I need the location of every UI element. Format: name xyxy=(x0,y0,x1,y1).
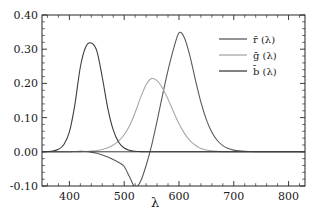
y-tick-label: 0.00 xyxy=(14,146,39,159)
x-tick-label: 400 xyxy=(59,190,80,203)
color-matching-functions-plot: 400500600700800 -0.100.000.100.200.300.4… xyxy=(0,0,324,218)
y-tick-label: -0.10 xyxy=(10,180,38,193)
x-tick-label: 700 xyxy=(223,190,244,203)
legend-label: r̄ (λ) xyxy=(253,34,275,45)
x-tick-label: 500 xyxy=(114,190,135,203)
y-tick-label: 0.30 xyxy=(14,43,39,56)
x-tick-label: 600 xyxy=(168,190,189,203)
chart-figure: 400500600700800 -0.100.000.100.200.300.4… xyxy=(0,0,324,218)
y-tick-label: 0.40 xyxy=(14,9,39,22)
y-tick-label: 0.20 xyxy=(14,77,39,90)
legend-label: ḡ (λ) xyxy=(253,50,277,61)
x-axis-label: λ xyxy=(151,195,159,210)
x-tick-label: 800 xyxy=(278,190,299,203)
y-tick-label: 0.10 xyxy=(14,112,39,125)
legend-label: b̄ (λ) xyxy=(253,65,277,76)
figure-background xyxy=(0,0,324,218)
